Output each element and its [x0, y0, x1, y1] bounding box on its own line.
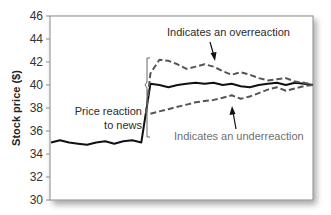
- y-tick-label: 36: [30, 124, 44, 138]
- annotation-underreaction: Indicates an underreaction: [174, 130, 304, 142]
- y-tick-label: 30: [30, 193, 44, 207]
- y-tick-label: 46: [30, 9, 44, 23]
- annotation-price-reaction-line2: to news: [104, 119, 142, 131]
- annotation-price-reaction-line1: Price reaction: [75, 105, 142, 117]
- y-tick-label: 34: [30, 147, 44, 161]
- y-tick-label: 42: [30, 55, 44, 69]
- y-axis: 303234363840424446: [30, 9, 50, 207]
- y-axis-label: Stock price ($): [10, 70, 22, 146]
- y-tick-label: 32: [30, 170, 44, 184]
- y-tick-label: 38: [30, 101, 44, 115]
- y-tick-label: 44: [30, 32, 44, 46]
- y-tick-label: 40: [30, 78, 44, 92]
- annotation-overreaction: Indicates an overreaction: [167, 26, 290, 38]
- stock-price-chart: 303234363840424446 Stock price ($) Price…: [0, 0, 331, 215]
